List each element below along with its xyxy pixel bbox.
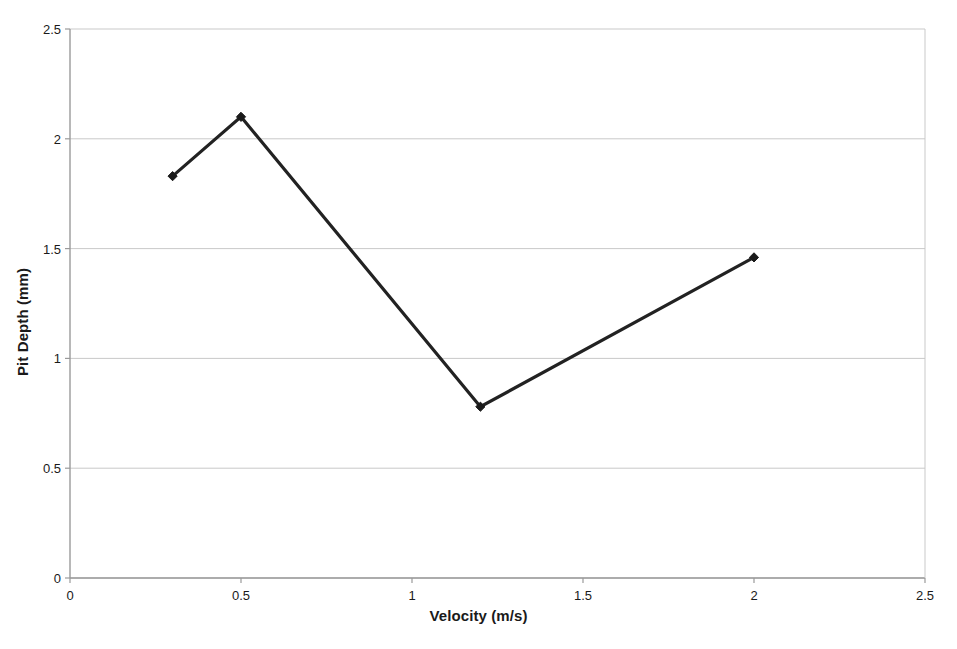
x-axis-tick-label: 1 xyxy=(408,588,415,603)
chart-container: 00.511.522.5 00.511.522.5 Velocity (m/s)… xyxy=(0,0,957,649)
x-axis-tick-label: 2 xyxy=(750,588,757,603)
axis-lines xyxy=(70,29,925,578)
data-markers xyxy=(168,112,759,411)
series-line xyxy=(173,117,754,407)
gridlines xyxy=(70,29,925,578)
y-axis-tick-label: 0.5 xyxy=(14,461,61,476)
x-axis-title: Velocity (m/s) xyxy=(0,607,957,624)
x-axis-tick-label: 2.5 xyxy=(916,588,934,603)
axis-ticks xyxy=(65,29,925,583)
y-axis-tick-label: 2 xyxy=(14,131,61,146)
y-axis-tick-label: 0 xyxy=(14,571,61,586)
y-axis-tick-label: 1.5 xyxy=(14,241,61,256)
x-axis-tick-label: 1.5 xyxy=(574,588,592,603)
y-axis-title-text: Pit Depth (mm) xyxy=(14,268,31,376)
data-series xyxy=(173,117,754,407)
x-axis-tick-label: 0 xyxy=(66,588,73,603)
y-axis-tick-label: 2.5 xyxy=(14,22,61,37)
x-axis-tick-label: 0.5 xyxy=(232,588,250,603)
line-chart-plot xyxy=(0,0,957,649)
